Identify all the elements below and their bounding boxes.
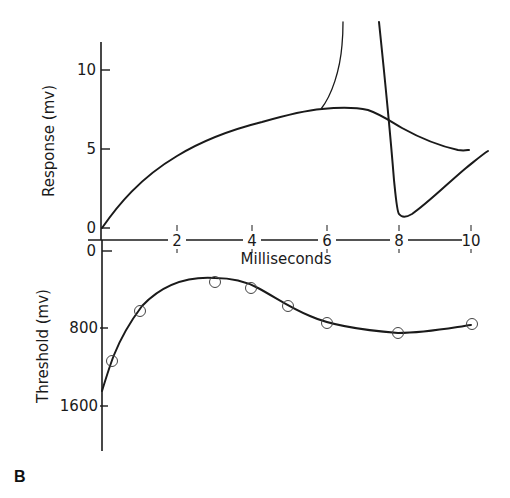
x-tick-label-6: 6 [322,232,332,250]
response-axis-title: Response (mv) [40,85,58,197]
x-axis-title: Milliseconds [241,250,332,268]
falling-spike-line [379,22,488,217]
x-tick-label-8: 8 [394,232,404,250]
threshold-tick-label-1600: 1600 [60,397,98,415]
threshold-tick-label-0: 0 [86,242,96,260]
x-tick-label-2: 2 [172,232,182,250]
subthreshold-response-line [102,108,469,228]
time-axis: 2 4 6 8 10 Milliseconds [88,225,481,268]
response-axis: 10 5 0 Response (mv) [40,42,110,240]
threshold-fitted-line [102,278,471,391]
x-tick-label-10: 10 [461,232,480,250]
x-tick-label-4: 4 [247,232,257,250]
response-tick-label-5: 5 [86,140,96,158]
panel-label: B [14,468,26,485]
threshold-data-point [467,319,478,330]
response-curves [102,22,488,228]
threshold-axis-title: Threshold (mv) [34,289,52,404]
response-tick-label-0: 0 [86,219,96,237]
early-spike-line [321,22,343,109]
response-tick-label-10: 10 [77,61,96,79]
threshold-curves [102,277,478,392]
threshold-axis: 0 800 1600 Threshold (mv) [34,240,112,451]
figure-canvas: B 10 5 0 Response (mv) 2 4 6 8 10 Millis… [0,0,510,498]
threshold-tick-label-800: 800 [69,319,98,337]
